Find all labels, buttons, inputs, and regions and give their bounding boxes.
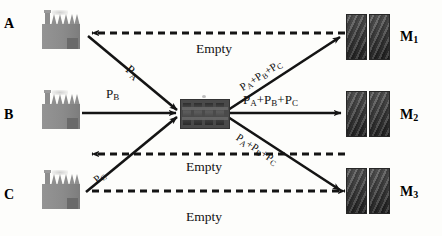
node-label-a: A <box>4 14 14 32</box>
node-label-c: C <box>4 185 14 203</box>
market-label-m1: M1 <box>400 29 418 44</box>
distribution-hub[interactable] <box>180 97 228 129</box>
edge-label-empty-top: Empty <box>196 39 232 57</box>
source-label-b: B <box>4 107 13 122</box>
warehouse-icon <box>180 97 228 129</box>
diagram-canvas: A B <box>0 0 442 236</box>
hub-body <box>180 99 230 129</box>
market-label-m3: M3 <box>400 184 418 199</box>
market-m2[interactable] <box>345 89 391 137</box>
edge-label-empty-middle: Empty <box>186 157 222 175</box>
market-m3[interactable] <box>345 166 391 214</box>
market-label-m2: M2 <box>400 107 418 122</box>
factory-icon <box>38 90 84 130</box>
factory-c[interactable] <box>38 170 84 210</box>
factory-icon <box>38 10 84 50</box>
factory-icon <box>38 170 84 210</box>
edge-label-pb: PB <box>106 84 119 102</box>
hub-marker <box>202 95 206 98</box>
node-label-m1: M1 <box>400 27 418 45</box>
market-m1[interactable] <box>345 12 391 60</box>
factory-b[interactable] <box>38 90 84 130</box>
edge-label-empty-bottom: Empty <box>186 207 222 225</box>
node-label-b: B <box>4 105 13 123</box>
factory-door <box>67 198 78 209</box>
market-icon <box>345 89 391 137</box>
market-icon <box>345 166 391 214</box>
factory-door <box>67 118 78 129</box>
node-label-m2: M2 <box>400 105 418 123</box>
factory-a[interactable] <box>38 10 84 50</box>
factory-door <box>67 38 78 49</box>
market-icon <box>345 12 391 60</box>
source-label-a: A <box>4 16 14 31</box>
edge-label-m2-load: PA+PB+PC <box>243 90 298 108</box>
node-label-m3: M3 <box>400 182 418 200</box>
source-label-c: C <box>4 187 14 202</box>
